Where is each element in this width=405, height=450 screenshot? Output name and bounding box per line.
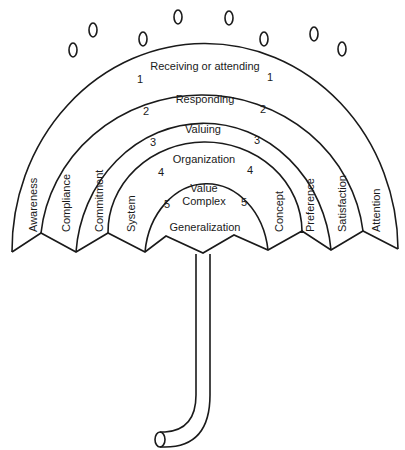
level-4-number-left: 4: [158, 166, 164, 178]
level-4-number-right: 4: [247, 164, 253, 176]
term-system: System: [125, 195, 137, 232]
raindrop-icon: [260, 32, 268, 46]
umbrella-diagram: Receiving or attending 1 1 Responding 2 …: [0, 0, 405, 450]
level-4-label: Organization: [173, 153, 235, 165]
level-2-number-left: 2: [143, 105, 149, 117]
term-compliance: Compliance: [60, 174, 72, 232]
term-concept: Concept: [273, 191, 285, 232]
level-5-label-line2: Complex: [182, 195, 226, 207]
level-2-number-right: 2: [260, 103, 266, 115]
level-5-bottom-label: Generalization: [170, 221, 241, 233]
raindrop-icon: [139, 32, 147, 46]
level-3-label: Valuing: [185, 123, 221, 135]
level-2-label: Responding: [176, 93, 235, 105]
level-5-number-right: 5: [241, 196, 247, 208]
raindrop-icon: [225, 11, 233, 25]
level-5-label-line1: Value: [190, 182, 217, 194]
level-1-number-right: 1: [267, 71, 273, 83]
term-preference: Preference: [304, 178, 316, 232]
raindrops: [69, 10, 346, 57]
level-3-number-right: 3: [254, 134, 260, 146]
canopy-hem: [12, 231, 398, 253]
raindrop-icon: [174, 10, 182, 24]
raindrop-icon: [69, 43, 77, 57]
term-attention: Attention: [370, 189, 382, 232]
term-awareness: Awareness: [27, 177, 39, 232]
level-1-label: Receiving or attending: [150, 60, 259, 72]
level-5-number-left: 5: [164, 198, 170, 210]
umbrella-handle: [155, 254, 210, 447]
raindrop-icon: [89, 23, 97, 37]
term-commitment: Commitment: [93, 170, 105, 232]
level-1-number-left: 1: [137, 73, 143, 85]
raindrop-icon: [310, 27, 318, 41]
term-satisfaction: Satisfaction: [336, 175, 348, 232]
level-3-number-left: 3: [150, 136, 156, 148]
raindrop-icon: [338, 42, 346, 56]
